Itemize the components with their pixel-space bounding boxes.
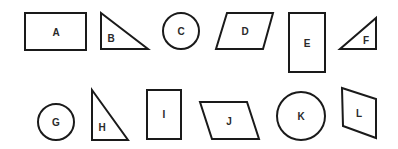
shape-label-k: K: [297, 111, 305, 122]
triangle-outline: [340, 18, 376, 49]
shape-a-rectangle: A: [25, 13, 86, 50]
shape-label-j: J: [226, 116, 232, 127]
shape-l-quadrilateral: L: [342, 88, 376, 138]
shapes-svg: A B C D E F G: [0, 0, 398, 149]
shape-i-rectangle: I: [147, 90, 181, 139]
shape-c-circle: C: [163, 13, 199, 49]
shape-label-g: G: [52, 117, 60, 128]
shapes-diagram: A B C D E F G: [0, 0, 398, 149]
shape-label-a: A: [52, 27, 59, 38]
shape-j-parallelogram: J: [200, 102, 259, 139]
shape-d-parallelogram: D: [216, 13, 273, 49]
shape-label-e: E: [304, 38, 311, 49]
shape-label-l: L: [356, 108, 362, 119]
shape-label-c: C: [177, 26, 184, 37]
shape-label-i: I: [163, 109, 166, 120]
triangle-outline: [101, 13, 148, 49]
shape-h-triangle: H: [92, 90, 128, 140]
shape-k-circle: K: [277, 92, 325, 140]
shape-e-rectangle: E: [289, 13, 325, 72]
shape-g-circle: G: [38, 104, 74, 140]
shape-f-triangle: F: [340, 18, 376, 49]
shape-label-h: H: [98, 122, 105, 133]
shape-b-triangle: B: [101, 13, 148, 49]
shape-label-b: B: [107, 33, 114, 44]
triangle-outline: [92, 90, 128, 140]
shape-label-d: D: [241, 26, 248, 37]
shape-label-f: F: [363, 35, 369, 46]
